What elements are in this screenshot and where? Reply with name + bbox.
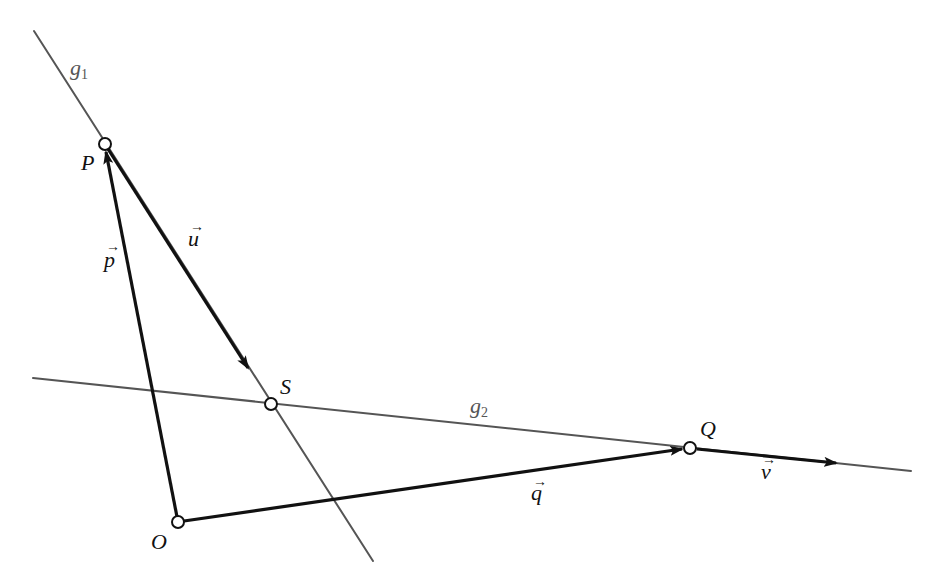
point-Q — [684, 442, 696, 454]
vector-arrow-icon: → — [106, 239, 120, 254]
label-vector-v: v → — [761, 452, 776, 484]
label-S: S — [280, 374, 291, 399]
label-vector-q: q → — [531, 474, 547, 505]
label-g2: g2 — [470, 393, 488, 420]
vector-q — [184, 449, 682, 521]
label-g1: g1 — [70, 55, 88, 82]
vector-u — [108, 149, 248, 368]
label-vector-u: u → — [188, 219, 204, 251]
label-Q: Q — [700, 416, 716, 441]
point-P — [99, 138, 111, 150]
label-vector-p: p → — [102, 239, 120, 272]
label-P: P — [80, 150, 94, 175]
point-S — [265, 398, 277, 410]
vector-arrow-icon: → — [533, 474, 547, 489]
vector-arrow-icon: → — [190, 219, 204, 234]
vector-p — [106, 152, 178, 522]
vector-diagram: P S O Q g1 g2 p → u → q → v → — [0, 0, 938, 587]
vector-arrow-icon: → — [762, 452, 776, 467]
point-O — [172, 516, 184, 528]
label-O: O — [151, 529, 167, 554]
